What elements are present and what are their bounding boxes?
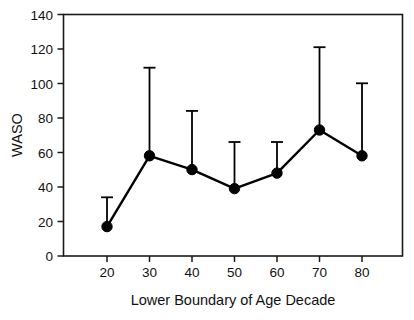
- data-point-80[interactable]: [357, 151, 367, 161]
- x-tick-label-60: 60: [269, 265, 284, 280]
- y-axis-ticks: [58, 15, 64, 257]
- y-tick-label-80: 80: [38, 111, 53, 126]
- x-tick-label-80: 80: [354, 265, 369, 280]
- error-bar-30: [144, 68, 156, 156]
- y-tick-label-40: 40: [38, 180, 53, 195]
- x-axis-title: Lower Boundary of Age Decade: [131, 292, 336, 308]
- x-tick-label-40: 40: [184, 265, 199, 280]
- data-point-70[interactable]: [314, 125, 324, 135]
- y-tick-label-140: 140: [30, 8, 53, 23]
- x-tick-label-30: 30: [142, 265, 157, 280]
- data-point-40[interactable]: [187, 164, 197, 174]
- y-tick-label-120: 120: [30, 42, 53, 57]
- x-tick-label-70: 70: [312, 265, 327, 280]
- plot-frame: [64, 15, 403, 257]
- x-axis-tick-labels: 20 30 40 50 60 70 80: [99, 265, 369, 280]
- data-point-60[interactable]: [272, 168, 282, 178]
- y-tick-label-0: 0: [45, 249, 53, 264]
- chart-figure: 0 20 40 60 80 100 120 140 20 30 40 50 60: [0, 0, 414, 320]
- x-tick-label-20: 20: [99, 265, 114, 280]
- x-tick-label-50: 50: [227, 265, 242, 280]
- waso-by-age-decade-line-chart: 0 20 40 60 80 100 120 140 20 30 40 50 60: [0, 0, 414, 320]
- data-point-30[interactable]: [144, 151, 154, 161]
- y-axis-tick-labels: 0 20 40 60 80 100 120 140: [30, 8, 53, 265]
- y-tick-label-20: 20: [38, 215, 53, 230]
- x-axis-ticks: [107, 256, 362, 262]
- y-tick-label-100: 100: [30, 77, 53, 92]
- error-bar-80: [356, 83, 368, 156]
- error-bar-70: [314, 47, 326, 130]
- error-bars: [101, 47, 368, 226]
- data-point-50[interactable]: [229, 183, 239, 193]
- error-bar-50: [229, 142, 241, 189]
- error-bar-40: [186, 111, 198, 170]
- data-point-20[interactable]: [102, 221, 112, 231]
- y-axis-title: WASO: [9, 113, 25, 157]
- y-tick-label-60: 60: [38, 146, 53, 161]
